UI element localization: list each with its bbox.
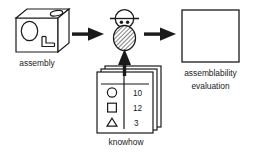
evaluation-box <box>182 10 239 62</box>
knowhow-row-value: 3 <box>134 119 139 128</box>
arrow-tail <box>144 32 162 35</box>
evaluation-label-line1: assemblability <box>184 68 237 78</box>
evaluation-label-line2: evaluation <box>191 81 230 91</box>
knowhow-row-symbol-circle-icon <box>107 88 116 97</box>
knowhow-row-value: 12 <box>133 104 143 113</box>
assembly-front-hole-icon <box>21 21 37 40</box>
arrow-tail <box>72 32 90 35</box>
knowhow-row-symbol-square-icon <box>108 103 117 112</box>
knowhow-label: knowhow <box>109 137 145 147</box>
knowhow-card-front <box>97 72 153 133</box>
evaluator-right-eye-icon <box>126 21 129 24</box>
assemblability-flow-diagram: assembly <box>0 0 256 155</box>
assembly-label: assembly <box>19 58 55 68</box>
knowhow-row-value: 10 <box>133 89 143 98</box>
evaluator-left-eye-icon <box>120 21 123 24</box>
diagram-canvas: assembly <box>0 0 256 155</box>
